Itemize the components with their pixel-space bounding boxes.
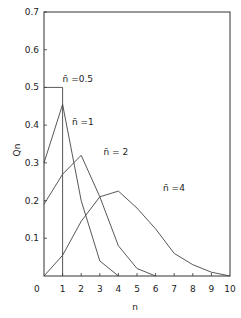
y-axis-label: Qn <box>12 144 22 157</box>
series-label-2: n̄ =1 <box>72 117 94 127</box>
ticks: 123456789100.10.20.30.40.50.60.7 <box>25 7 236 294</box>
x-tick-label: 1 <box>60 284 66 294</box>
series-line-4 <box>44 191 230 276</box>
series-label-3: n̄ = 2 <box>104 147 129 157</box>
y-tick-label: 0.6 <box>25 45 40 55</box>
y-tick-label: 0.5 <box>25 82 39 92</box>
axes <box>44 12 230 276</box>
origin-label: 0 <box>34 284 40 294</box>
series-line-2 <box>44 104 118 276</box>
plot-frame <box>44 12 230 276</box>
series-label-1: n̄ =0.5 <box>63 74 93 84</box>
x-tick-label: 3 <box>97 284 103 294</box>
x-tick-label: 9 <box>209 284 215 294</box>
x-axis-label: n <box>132 302 138 312</box>
series-group: n̄ =0.5n̄ =1n̄ = 2n̄ =4 <box>44 74 230 276</box>
x-tick-label: 2 <box>78 284 84 294</box>
x-tick-label: 10 <box>224 284 236 294</box>
y-tick-label: 0.3 <box>25 158 39 168</box>
series-line-1 <box>44 87 63 276</box>
y-tick-label: 0.7 <box>25 7 39 17</box>
y-tick-label: 0.4 <box>25 120 40 130</box>
y-tick-label: 0.2 <box>25 196 39 206</box>
series-label-4: n̄ =4 <box>163 183 185 193</box>
x-tick-label: 5 <box>134 284 140 294</box>
chart: 123456789100.10.20.30.40.50.60.7 n̄ =0.5… <box>0 0 241 318</box>
x-tick-label: 7 <box>171 284 177 294</box>
y-tick-label: 0.1 <box>25 233 39 243</box>
x-tick-label: 8 <box>190 284 196 294</box>
x-tick-label: 6 <box>153 284 159 294</box>
x-tick-label: 4 <box>116 284 122 294</box>
